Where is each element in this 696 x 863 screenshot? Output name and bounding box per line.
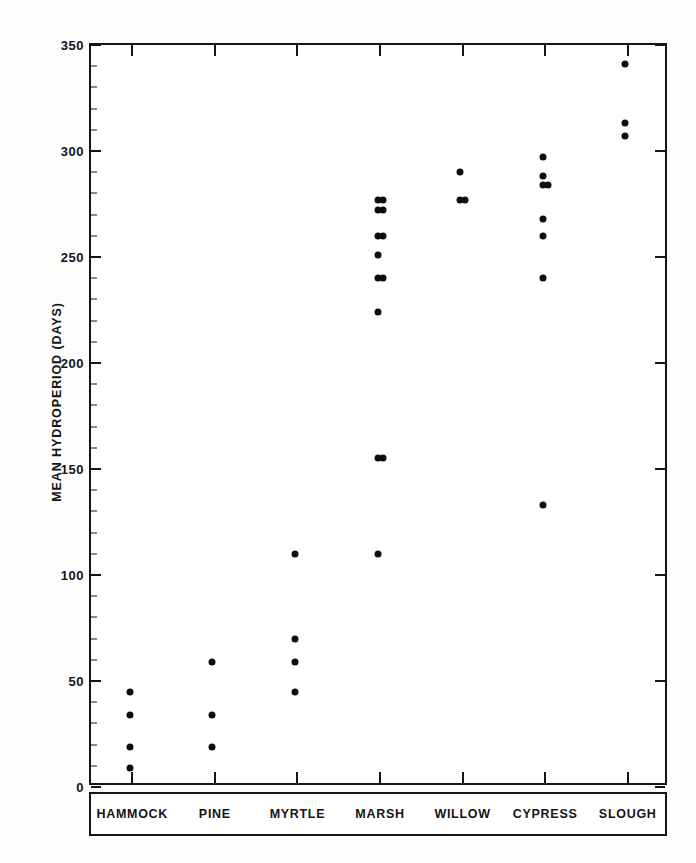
- y-tick-minor: [91, 235, 97, 236]
- data-point: [209, 743, 216, 750]
- y-tick-minor: [91, 384, 97, 385]
- y-tick-minor: [91, 490, 97, 491]
- x-tick-marsh: [379, 772, 381, 783]
- data-point: [126, 764, 133, 771]
- category-label-cypress: CYPRESS: [513, 807, 578, 821]
- category-label-willow: WILLOW: [434, 807, 490, 821]
- data-point: [291, 658, 298, 665]
- y-tick-minor: [91, 659, 97, 660]
- y-tick-label: 50: [69, 674, 84, 689]
- y-tick-minor: [91, 532, 97, 533]
- y-tick-label: 0: [76, 780, 84, 795]
- data-point: [539, 232, 546, 239]
- x-tick-marsh: [379, 45, 381, 56]
- data-point: [126, 688, 133, 695]
- y-tick-minor: [91, 66, 97, 67]
- y-tick-major: [91, 150, 101, 152]
- y-axis-title: MEAN HYDROPERIOD (DAYS): [50, 242, 64, 562]
- y-tick-major-right: [655, 44, 665, 46]
- category-label-marsh: MARSH: [355, 807, 404, 821]
- y-tick-minor: [91, 723, 97, 724]
- y-tick-minor: [91, 341, 97, 342]
- y-tick-minor: [91, 320, 97, 321]
- x-tick-willow: [462, 772, 464, 783]
- y-tick-major: [91, 362, 101, 364]
- plot-area: 050100150200250300350: [89, 43, 667, 785]
- x-tick-willow: [462, 45, 464, 56]
- data-point: [457, 169, 464, 176]
- y-tick-label: 100: [61, 568, 84, 583]
- y-tick-major: [91, 468, 101, 470]
- data-point: [374, 251, 381, 258]
- data-point: [209, 711, 216, 718]
- y-tick-major: [91, 680, 101, 682]
- y-tick-major-right: [655, 786, 665, 788]
- data-point: [291, 550, 298, 557]
- data-point: [544, 181, 551, 188]
- data-point: [379, 275, 386, 282]
- x-tick-cypress: [544, 45, 546, 56]
- data-point: [374, 550, 381, 557]
- data-point: [374, 309, 381, 316]
- data-point: [622, 61, 629, 68]
- y-tick-minor: [91, 447, 97, 448]
- category-label-strip: HAMMOCKPINEMYRTLEMARSHWILLOWCYPRESSSLOUG…: [89, 792, 667, 836]
- category-label-pine: PINE: [199, 807, 231, 821]
- x-tick-hammock: [131, 772, 133, 783]
- data-point: [539, 502, 546, 509]
- data-point: [539, 275, 546, 282]
- x-tick-myrtle: [296, 45, 298, 56]
- y-tick-major-right: [655, 362, 665, 364]
- y-tick-label: 200: [61, 356, 84, 371]
- x-tick-hammock: [131, 45, 133, 56]
- data-point: [539, 173, 546, 180]
- y-tick-major: [91, 786, 101, 788]
- data-point: [126, 743, 133, 750]
- x-tick-cypress: [544, 772, 546, 783]
- data-point: [379, 232, 386, 239]
- y-tick-minor: [91, 638, 97, 639]
- y-tick-minor: [91, 702, 97, 703]
- category-label-hammock: HAMMOCK: [97, 807, 169, 821]
- data-point: [291, 635, 298, 642]
- y-tick-label: 300: [61, 144, 84, 159]
- y-tick-label: 350: [61, 38, 84, 53]
- y-tick-minor: [91, 172, 97, 173]
- y-tick-minor: [91, 553, 97, 554]
- y-tick-minor: [91, 129, 97, 130]
- y-tick-minor: [91, 108, 97, 109]
- data-point: [622, 120, 629, 127]
- scatter-plot-figure: MEAN HYDROPERIOD (DAYS) 0501001502002503…: [0, 0, 696, 863]
- data-point: [291, 688, 298, 695]
- y-tick-major-right: [655, 150, 665, 152]
- x-tick-slough: [627, 45, 629, 56]
- y-tick-major-right: [655, 256, 665, 258]
- data-point: [539, 154, 546, 161]
- y-tick-minor: [91, 405, 97, 406]
- x-tick-pine: [214, 45, 216, 56]
- y-tick-major: [91, 256, 101, 258]
- data-point: [209, 658, 216, 665]
- x-tick-myrtle: [296, 772, 298, 783]
- y-tick-label: 250: [61, 250, 84, 265]
- y-tick-minor: [91, 426, 97, 427]
- y-tick-major-right: [655, 468, 665, 470]
- y-tick-major: [91, 44, 101, 46]
- y-tick-minor: [91, 617, 97, 618]
- y-tick-minor: [91, 87, 97, 88]
- y-tick-minor: [91, 278, 97, 279]
- y-tick-minor: [91, 511, 97, 512]
- category-label-myrtle: MYRTLE: [270, 807, 326, 821]
- data-point: [379, 207, 386, 214]
- y-tick-minor: [91, 596, 97, 597]
- data-point: [622, 133, 629, 140]
- y-tick-major-right: [655, 574, 665, 576]
- y-tick-minor: [91, 193, 97, 194]
- data-point: [379, 196, 386, 203]
- category-label-slough: SLOUGH: [599, 807, 657, 821]
- data-point: [126, 711, 133, 718]
- y-tick-major: [91, 574, 101, 576]
- y-tick-major-right: [655, 680, 665, 682]
- y-tick-minor: [91, 299, 97, 300]
- y-tick-minor: [91, 744, 97, 745]
